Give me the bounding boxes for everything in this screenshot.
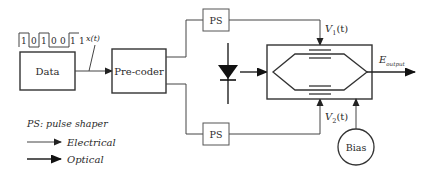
signal-label: x(t) — [86, 34, 100, 43]
precoder-label: Pre-coder — [114, 66, 164, 77]
precoder-to-ps-top-wire — [166, 20, 203, 57]
bias-label: Bias — [346, 142, 367, 153]
ps-top-label: PS — [210, 15, 223, 26]
legend-optical-label: Optical — [67, 154, 104, 165]
legend-electrical-label: Electrical — [66, 137, 116, 148]
bit-5: 1 — [70, 36, 76, 46]
v1-wire — [229, 20, 320, 45]
modulator-diagram: 1 0 1 0 0 1 1 x(t) Data Pre-coder PS PS — [0, 0, 431, 176]
bit-0: 1 — [21, 36, 27, 46]
laser-diode-icon — [218, 43, 238, 104]
bit-3: 0 — [51, 36, 57, 46]
v2-wire — [229, 99, 320, 134]
data-label: Data — [36, 66, 60, 77]
v1-label: V1(t) — [325, 23, 348, 37]
bit-6: 1 — [79, 36, 85, 46]
v2-label: V2(t) — [325, 111, 348, 125]
bit-waveform: 1 0 1 0 0 1 1 — [19, 33, 85, 47]
bit-2: 1 — [41, 36, 47, 46]
ps-bottom-label: PS — [210, 129, 223, 140]
precoder-to-ps-bottom-wire — [166, 84, 203, 134]
mz-modulator-block — [267, 45, 372, 99]
bit-4: 0 — [60, 36, 66, 46]
bit-1: 0 — [31, 36, 37, 46]
legend-ps-note: PS: pulse shaper — [26, 118, 109, 129]
signal-pointer — [89, 45, 95, 71]
e-output-label: Eoutput — [378, 54, 405, 68]
